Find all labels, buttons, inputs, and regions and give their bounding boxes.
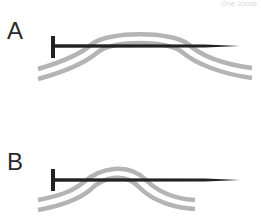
nail-shaft-b [55, 178, 240, 181]
diagram-canvas [0, 0, 261, 224]
gray-bands-b [38, 169, 195, 210]
nail-head-a [51, 36, 55, 58]
nail-head-b [51, 169, 55, 191]
panel-b [38, 169, 240, 210]
outer-band-a [38, 34, 252, 69]
panel-a [38, 34, 252, 79]
gray-bands-a [38, 34, 252, 79]
outer-band-b [38, 169, 195, 200]
nail-shaft-a [55, 44, 240, 47]
